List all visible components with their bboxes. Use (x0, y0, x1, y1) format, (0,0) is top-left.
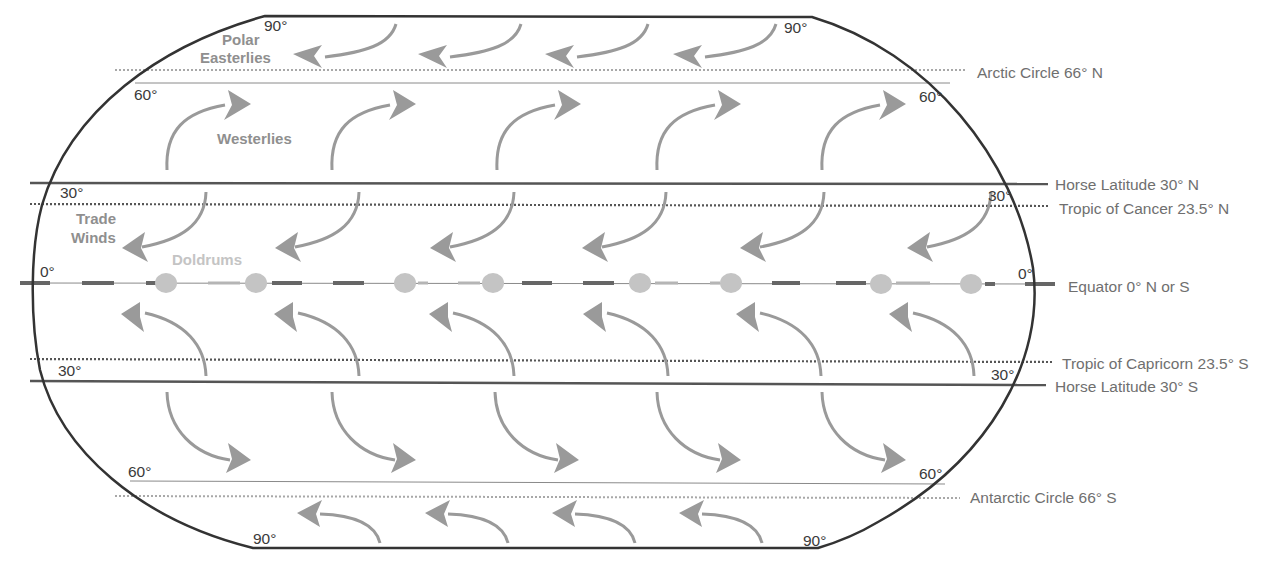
wind-arrow-west (297, 500, 380, 543)
wind-arrow-west (293, 24, 396, 68)
wind-arrow-east (497, 90, 581, 170)
trade-winds-label-line1: Trade (76, 210, 116, 227)
wind-arrow-southwest (582, 192, 666, 262)
degree-label-90-bottom-right: 90° (803, 532, 826, 549)
arctic-circle-label: Arctic Circle 66° N (977, 64, 1103, 81)
horse-latitude-s-label: Horse Latitude 30° S (1055, 378, 1198, 395)
wind-arrow-west (425, 500, 508, 543)
degree-label-90-bottom-left: 90° (253, 530, 276, 547)
wind-arrow-northwest (274, 302, 359, 376)
trade-winds-label-line2: Winds (71, 229, 116, 246)
trade-winds-south-arrows (121, 302, 974, 376)
degree-label-60s-left: 60° (128, 463, 151, 480)
degree-label-0-left: 0° (40, 263, 55, 280)
polar-easterlies-north-arrows (293, 24, 776, 68)
wind-arrow-west (679, 500, 762, 543)
wind-arrow-east (822, 90, 906, 170)
tropic-cancer-label: Tropic of Cancer 23.5° N (1059, 200, 1229, 217)
horse-latitude-s-line (30, 381, 1046, 385)
wind-arrow-west (418, 24, 521, 68)
horse-latitude-n-label: Horse Latitude 30° N (1055, 176, 1199, 193)
wind-arrow-northwest (736, 302, 821, 376)
wind-arrow-east (495, 392, 579, 473)
wind-arrow-west (552, 500, 635, 543)
tropic-capricorn-line (30, 359, 1054, 362)
wind-arrow-southwest (907, 192, 991, 262)
wind-arrow-west (673, 24, 776, 68)
degree-label-30n-right: 30° (988, 187, 1011, 204)
westerlies-label: Westerlies (217, 130, 292, 147)
westerlies-south-arrows (167, 392, 906, 473)
line-60s (130, 481, 945, 484)
degree-label-30n-left: 30° (60, 184, 83, 201)
trade-winds-north-arrows (122, 192, 991, 262)
wind-arrow-southwest (275, 192, 359, 262)
tropic-capricorn-label: Tropic of Capricorn 23.5° S (1062, 355, 1249, 372)
wind-arrow-southwest (740, 192, 824, 262)
antarctic-circle-line (115, 496, 960, 498)
wind-arrow-northwest (583, 302, 668, 376)
wind-arrow-east (657, 90, 741, 170)
wind-arrow-east (332, 392, 416, 473)
wind-arrow-east (332, 90, 416, 170)
wind-arrow-northwest (429, 302, 514, 376)
degree-label-60n-right: 60° (919, 88, 942, 105)
equator-label: Equator 0° N or S (1068, 278, 1190, 295)
wind-arrow-east (657, 392, 741, 473)
degree-label-60n-left: 60° (134, 86, 157, 103)
antarctic-circle-label: Antarctic Circle 66° S (970, 489, 1117, 506)
polar-easterlies-south-arrows (297, 500, 762, 543)
wind-arrow-east (822, 392, 906, 473)
degree-label-30s-left: 30° (58, 362, 81, 379)
wind-arrow-east (167, 392, 251, 473)
global-wind-belts-diagram: Polar Easterlies Westerlies Trade Winds … (0, 0, 1282, 567)
polar-easterlies-label-line1: Polar (222, 31, 260, 48)
degree-label-0-right: 0° (1018, 265, 1033, 282)
degree-label-30s-right: 30° (991, 366, 1014, 383)
wind-arrow-northwest (889, 302, 974, 376)
degree-label-90-top-left: 90° (264, 17, 287, 34)
doldrums-label: Doldrums (172, 251, 242, 268)
wind-arrow-northwest (121, 302, 206, 376)
wind-arrow-southwest (430, 192, 514, 262)
degree-label-60s-right: 60° (919, 465, 942, 482)
wind-arrow-west (545, 24, 648, 68)
polar-easterlies-label-line2: Easterlies (200, 49, 271, 66)
degree-label-90-top-right: 90° (784, 19, 807, 36)
horse-latitude-n-line (30, 183, 1048, 184)
tropic-cancer-line (30, 204, 1048, 206)
latitude-labels: Arctic Circle 66° N Horse Latitude 30° N… (970, 64, 1249, 506)
